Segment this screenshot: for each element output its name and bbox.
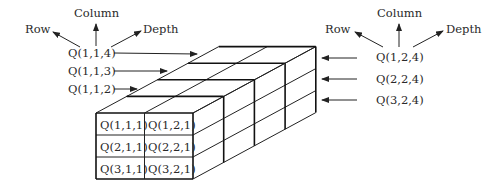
left-axis-indicator: Column Row Depth xyxy=(25,6,179,47)
cube xyxy=(96,47,316,179)
right-label-q-2-2-4: Q(2,2,4) xyxy=(376,72,424,86)
right-label-q-1-2-4: Q(1,2,4) xyxy=(376,50,424,64)
left-arrow-depth-4-icon xyxy=(114,53,197,54)
cube-diagram: Q(1,1,1) Q(1,2,1) Q(2,1,1) Q(2,2,1) Q(3,… xyxy=(0,0,500,189)
left-label-q-1-1-3: Q(1,1,3) xyxy=(68,64,116,78)
left-depth-labels: Q(1,1,4) Q(1,1,3) Q(1,1,2) xyxy=(68,46,197,96)
right-label-q-3-2-4: Q(3,2,4) xyxy=(376,93,424,107)
cell-q-3-1-1: Q(3,1,1) xyxy=(100,162,148,176)
left-axis-column-label: Column xyxy=(74,6,120,20)
cell-q-2-2-1: Q(2,2,1) xyxy=(148,140,196,154)
front-face-cells: Q(1,1,1) Q(1,2,1) Q(2,1,1) Q(2,2,1) Q(3,… xyxy=(100,118,196,176)
cell-q-1-1-1: Q(1,1,1) xyxy=(100,118,148,132)
left-axis-row-label: Row xyxy=(25,22,51,36)
left-row-arrow-icon xyxy=(53,32,80,47)
left-label-q-1-1-2: Q(1,1,2) xyxy=(68,82,116,96)
cell-q-3-2-1: Q(3,2,1) xyxy=(148,162,196,176)
left-axis-depth-label: Depth xyxy=(143,22,179,36)
cell-q-2-1-1: Q(2,1,1) xyxy=(100,140,148,154)
cell-q-1-2-1: Q(1,2,1) xyxy=(148,118,196,132)
right-depth-arrow-icon xyxy=(413,31,443,47)
right-row-arrow-icon xyxy=(355,32,383,47)
right-axis-row-label: Row xyxy=(325,22,351,36)
left-depth-arrow-icon xyxy=(111,31,141,47)
right-depth-labels: Q(1,2,4) Q(2,2,4) Q(3,2,4) xyxy=(322,50,424,107)
right-axis-depth-label: Depth xyxy=(446,22,482,36)
right-axis-column-label: Column xyxy=(377,6,423,20)
right-axis-indicator: Column Row Depth xyxy=(325,6,482,47)
left-label-q-1-1-4: Q(1,1,4) xyxy=(68,46,116,60)
